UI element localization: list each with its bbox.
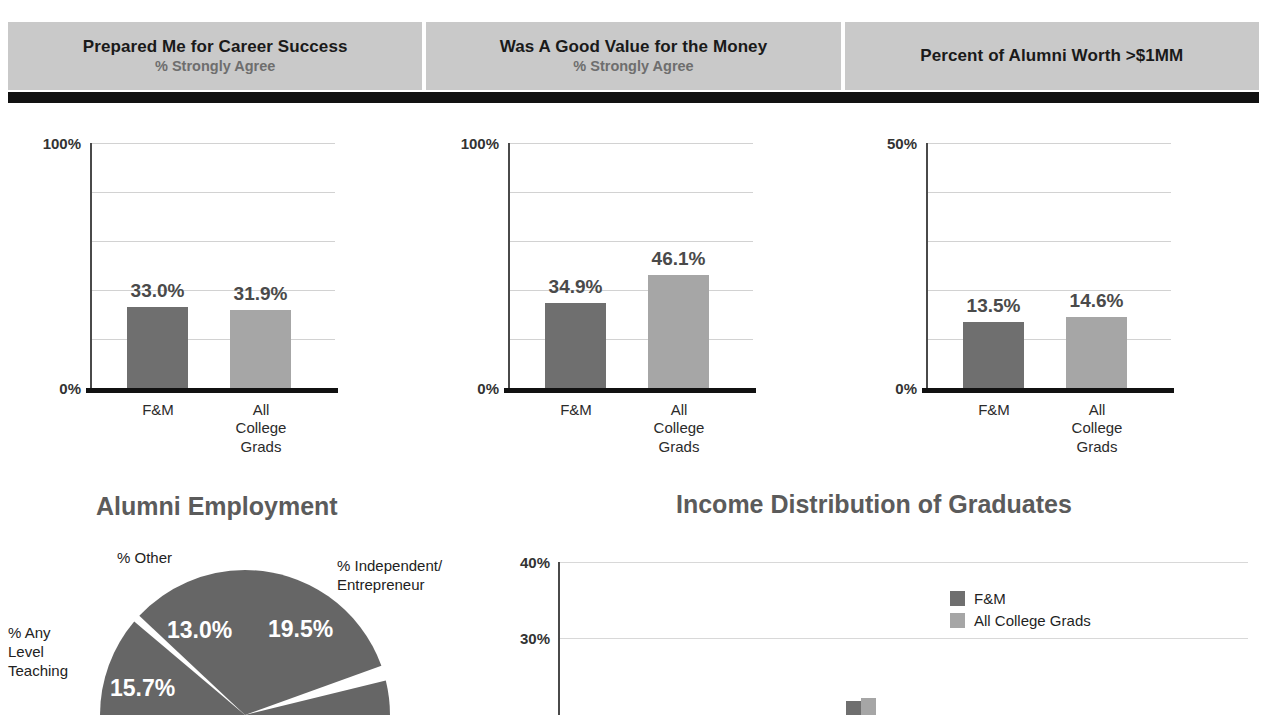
plot-area: 40% 30% F&M All College Grads (558, 562, 1248, 715)
pie-chart-title: Alumni Employment (96, 492, 338, 521)
gridline (90, 290, 335, 291)
x-label-all-college-grads: All College Grads (1051, 401, 1143, 456)
x-label-all-college-grads: All College Grads (215, 401, 307, 456)
bar-fm: 13.5% (963, 322, 1024, 388)
legend-swatch-icon (950, 613, 965, 628)
y-axis (558, 562, 560, 715)
header-title: Was A Good Value for the Money (500, 37, 767, 57)
legend-item-all-college-grads: All College Grads (950, 612, 1091, 629)
y-tick-max: 100% (461, 135, 499, 152)
x-axis (86, 388, 338, 393)
chart-was-a-good-value-for-the-money: 100% 0% 34.9% 46.1% F&M All College Grad… (420, 110, 842, 475)
gridline (558, 638, 1248, 639)
pie-value-independent-entrepreneur: 19.5% (268, 616, 333, 643)
gridline (926, 192, 1171, 193)
pie-value-any-level-teaching: 15.7% (110, 675, 175, 702)
income-distribution-chart: 40% 30% F&M All College Grads (500, 545, 1267, 715)
header-title: Prepared Me for Career Success (83, 37, 348, 57)
header-panel-alumni-worth: Percent of Alumni Worth >$1MM (841, 22, 1259, 90)
bar-value-all-college-grads: 14.6% (1070, 290, 1124, 312)
bar-value-fm: 34.9% (549, 276, 603, 298)
income-bar-fm (846, 701, 861, 715)
gridline (926, 241, 1171, 242)
header-panel-career-success: Prepared Me for Career Success % Strongl… (8, 22, 422, 90)
header-panel-good-value: Was A Good Value for the Money % Strongl… (422, 22, 840, 90)
y-axis (926, 143, 928, 388)
pie-value-other: 13.0% (167, 617, 232, 644)
header-band: Prepared Me for Career Success % Strongl… (8, 22, 1259, 90)
bar-all-college-grads: 14.6% (1066, 317, 1127, 389)
header-underline-rule (8, 92, 1259, 103)
bar-fm: 33.0% (127, 307, 188, 388)
gridline (90, 241, 335, 242)
plot-area: 50% 0% 13.5% 14.6% F&M All College Grads (926, 143, 1171, 388)
gridline (90, 143, 335, 144)
x-label-fm: F&M (112, 401, 204, 419)
x-label-fm: F&M (530, 401, 622, 419)
legend-label-fm: F&M (974, 590, 1006, 607)
x-label-all-college-grads: All College Grads (633, 401, 725, 456)
x-axis (504, 388, 756, 393)
bar-all-college-grads: 31.9% (230, 310, 291, 388)
bar-all-college-grads: 46.1% (648, 275, 709, 388)
chart-prepared-me-for-career-success: 100% 0% 33.0% 31.9% F&M All College Grad… (0, 110, 422, 475)
bar-value-fm: 33.0% (131, 280, 185, 302)
bar-fm: 34.9% (545, 303, 606, 389)
gridline (508, 290, 753, 291)
gridline (558, 562, 1248, 563)
bar-chart-row: 100% 0% 33.0% 31.9% F&M All College Grad… (0, 110, 1267, 475)
y-axis (90, 143, 92, 388)
income-bar-all-college-grads (861, 698, 876, 715)
y-tick-30: 30% (520, 630, 550, 647)
y-tick-max: 50% (887, 135, 917, 152)
gridline (926, 143, 1171, 144)
income-chart-title: Income Distribution of Graduates (676, 490, 1072, 519)
legend-label-all-college-grads: All College Grads (974, 612, 1091, 629)
y-tick-40: 40% (520, 554, 550, 571)
y-tick-zero: 0% (477, 380, 499, 397)
y-tick-zero: 0% (895, 380, 917, 397)
pie-label-other: % Other (117, 549, 172, 568)
y-tick-zero: 0% (59, 380, 81, 397)
bar-value-fm: 13.5% (967, 295, 1021, 317)
x-axis (922, 388, 1174, 393)
plot-area: 100% 0% 34.9% 46.1% F&M All College Grad… (508, 143, 753, 388)
pie-label-any-level-teaching: % Any Level Teaching (8, 624, 68, 680)
legend-swatch-icon (950, 591, 965, 606)
legend-item-fm: F&M (950, 590, 1091, 607)
gridline (90, 192, 335, 193)
income-legend: F&M All College Grads (950, 590, 1091, 634)
x-label-fm: F&M (948, 401, 1040, 419)
bar-value-all-college-grads: 46.1% (652, 248, 706, 270)
header-subtitle: % Strongly Agree (155, 58, 275, 75)
gridline (508, 143, 753, 144)
gridline (508, 241, 753, 242)
chart-percent-of-alumni-worth-over-1mm: 50% 0% 13.5% 14.6% F&M All College Grads (840, 110, 1262, 475)
plot-area: 100% 0% 33.0% 31.9% F&M All College Grad… (90, 143, 335, 388)
gridline (926, 290, 1171, 291)
header-title: Percent of Alumni Worth >$1MM (920, 46, 1183, 66)
y-axis (508, 143, 510, 388)
pie-label-independent-entrepreneur: % Independent/ Entrepreneur (337, 557, 442, 595)
y-tick-max: 100% (43, 135, 81, 152)
gridline (508, 192, 753, 193)
header-subtitle: % Strongly Agree (573, 58, 693, 75)
bar-value-all-college-grads: 31.9% (234, 283, 288, 305)
